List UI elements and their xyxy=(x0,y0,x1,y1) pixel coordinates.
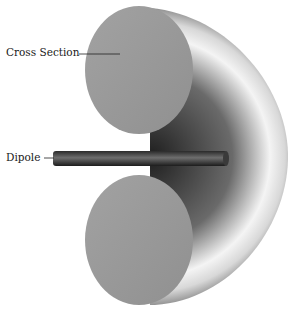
diagram-canvas: Cross Section Dipole xyxy=(0,0,296,314)
dipole-label: Dipole xyxy=(6,151,40,163)
dipole-rod xyxy=(53,151,227,166)
cross-section-upper xyxy=(85,6,193,134)
cross-section-label: Cross Section xyxy=(6,46,79,58)
cross-section-lower xyxy=(85,175,193,305)
dipole-rod-end xyxy=(223,151,229,166)
